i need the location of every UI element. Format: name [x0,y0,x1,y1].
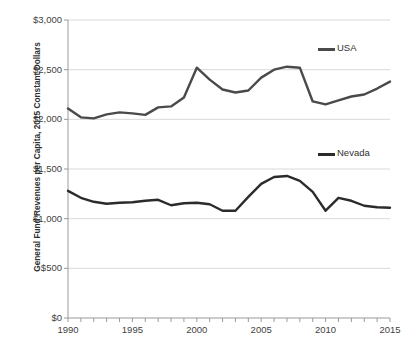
x-tick-label: 2000 [174,324,220,335]
y-tick-label: $1,500 [16,163,62,174]
x-tick-label: 1995 [109,324,155,335]
y-tick-label: $0 [16,312,62,323]
y-tick-label: $2,000 [16,113,62,124]
legend-label-nevada: Nevada [337,147,370,158]
legend-swatch-nevada [318,153,335,156]
y-tick-label: $500 [16,262,62,273]
legend-swatch-usa [318,48,335,51]
chart-container: General Fund Revenues per Capita, 2015 C… [0,0,416,358]
y-tick-label: $1,000 [16,213,62,224]
x-tick-label: 1990 [45,324,91,335]
x-tick-label: 2005 [238,324,284,335]
legend-label-usa: USA [337,42,357,53]
y-tick-label: $2,500 [16,64,62,75]
y-tick-label: $3,000 [16,14,62,25]
x-tick-label: 2015 [367,324,413,335]
plot-area [0,0,416,358]
series-line-usa [68,67,390,119]
x-tick-label: 2010 [303,324,349,335]
series-line-nevada [68,176,390,211]
